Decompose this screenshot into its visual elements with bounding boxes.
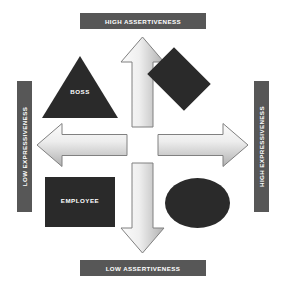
quadrant-shape-triangle-boss — [42, 56, 118, 118]
diagram-canvas: HIGH ASSERTIVENESS LOW ASSERTIVENESS LOW… — [0, 0, 285, 290]
quadrant-shape-ellipse — [165, 178, 230, 228]
right-arrow — [158, 124, 248, 167]
down-arrow — [121, 163, 164, 253]
quadrant-label-employee: EMPLOYEE — [45, 197, 115, 204]
left-arrow — [37, 124, 127, 167]
arrow-cross-group — [0, 0, 285, 290]
quadrant-label-boss: BOSS — [42, 88, 118, 95]
